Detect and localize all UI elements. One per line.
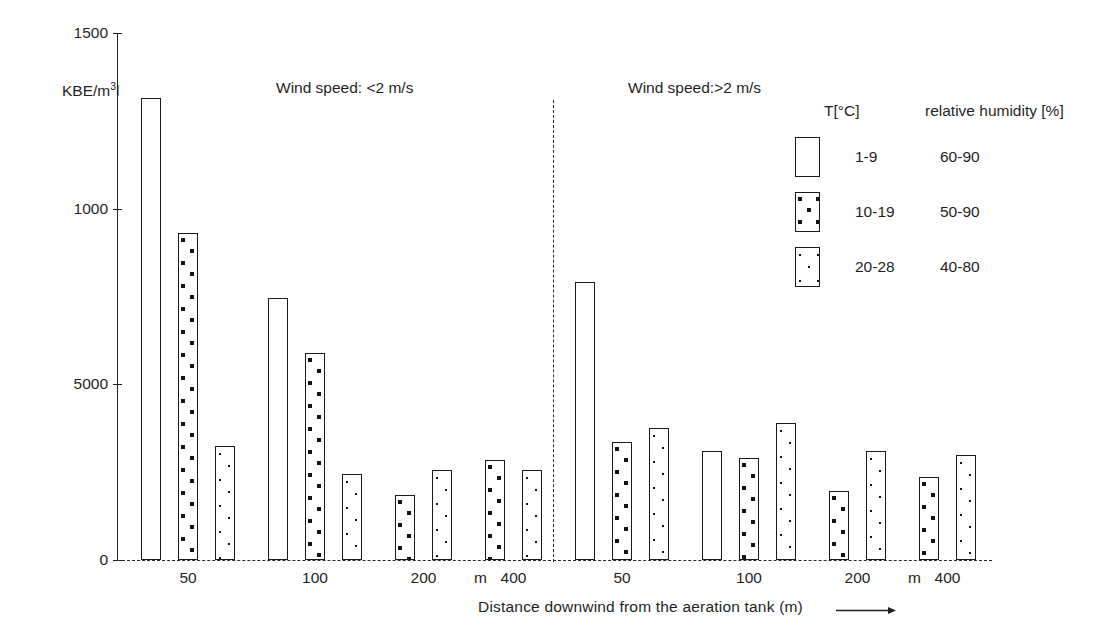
y-axis-title-tail: l — [116, 82, 119, 99]
legend-header-temperature: T[°C] — [824, 103, 859, 119]
bar-wind-speed-high-50-10-19 — [612, 442, 632, 560]
bar-wind-speed-low-200-20-28 — [432, 470, 452, 560]
x-axis-arrow-icon — [836, 606, 896, 615]
legend-header-humidity: relative humidity [%] — [925, 103, 1064, 119]
bar-wind-speed-low-50-10-19 — [178, 233, 198, 560]
x-axis-group-label-wind-speed-high-50: 50 — [582, 570, 662, 586]
bar-wind-speed-low-200-10-19 — [395, 495, 415, 560]
bar-wind-speed-high-100-20-28 — [776, 423, 796, 560]
bar-wind-speed-low-100-20-28 — [342, 474, 362, 560]
y-axis-tick — [113, 384, 122, 385]
panel-divider — [553, 100, 554, 562]
bar-wind-speed-low-50-1-9 — [141, 98, 161, 560]
legend-humidity-empty: 60-90 — [940, 149, 980, 165]
y-axis-tick-label: 0 — [30, 552, 108, 568]
legend-swatch-empty — [795, 137, 820, 177]
bar-wind-speed-high-400-20-28 — [956, 455, 976, 560]
legend-humidity-bigdots: 50-90 — [940, 204, 980, 220]
y-axis-line — [117, 33, 118, 560]
y-axis-tick-label: 1500 — [30, 25, 108, 41]
x-axis-group-label-wind-speed-low-50: 50 — [148, 570, 228, 586]
y-axis-tick — [113, 209, 122, 210]
legend-humidity-smalldots: 40-80 — [940, 259, 980, 275]
panel-label-wind-speed-high: Wind speed:>2 m/s — [628, 80, 761, 96]
x-axis-group-label-wind-speed-low-100: 100 — [275, 570, 355, 586]
bar-wind-speed-low-100-10-19 — [305, 353, 325, 560]
x-axis-group-label-wind-speed-low-200: 200 — [384, 570, 464, 586]
legend-temperature-empty: 1-9 — [855, 149, 877, 165]
bar-wind-speed-high-50-20-28 — [649, 428, 669, 560]
bar-wind-speed-high-200-20-28 — [866, 451, 886, 560]
x-axis-baseline — [117, 560, 992, 561]
legend-temperature-bigdots: 10-19 — [855, 204, 895, 220]
bar-wind-speed-high-200-10-19 — [829, 491, 849, 560]
legend-swatch-smalldots — [795, 247, 820, 287]
bar-wind-speed-low-400-20-28 — [522, 470, 542, 560]
y-axis-tick-label: 1000 — [30, 201, 108, 217]
bar-wind-speed-high-400-10-19 — [919, 477, 939, 560]
y-axis-title: KBE/m3l — [62, 78, 120, 99]
bar-wind-speed-low-400-10-19 — [485, 460, 505, 560]
x-axis-group-label-wind-speed-high-100: 100 — [709, 570, 789, 586]
bar-wind-speed-high-100-10-19 — [739, 458, 759, 560]
panel-label-wind-speed-low: Wind speed: <2 m/s — [276, 80, 413, 96]
y-axis-tick — [113, 33, 122, 34]
bar-wind-speed-low-50-20-28 — [215, 446, 235, 560]
legend-temperature-smalldots: 20-28 — [855, 259, 895, 275]
x-axis-group-label-wind-speed-low-400: 400 — [474, 570, 554, 586]
bar-wind-speed-low-100-1-9 — [268, 298, 288, 560]
legend-swatch-bigdots — [795, 192, 820, 232]
x-axis-group-label-wind-speed-high-400: 400 — [908, 570, 988, 586]
x-axis-title: Distance downwind from the aeration tank… — [478, 598, 803, 615]
x-axis-group-label-wind-speed-high-200: 200 — [818, 570, 898, 586]
y-axis-tick-label: 5000 — [30, 376, 108, 392]
y-axis-title-main: KBE/m — [62, 82, 110, 99]
bar-wind-speed-high-100-1-9 — [702, 451, 722, 560]
bar-wind-speed-high-50-1-9 — [575, 282, 595, 560]
chart-canvas: 0500010001500 KBE/m3l Wind speed: <2 m/s… — [0, 0, 1110, 633]
